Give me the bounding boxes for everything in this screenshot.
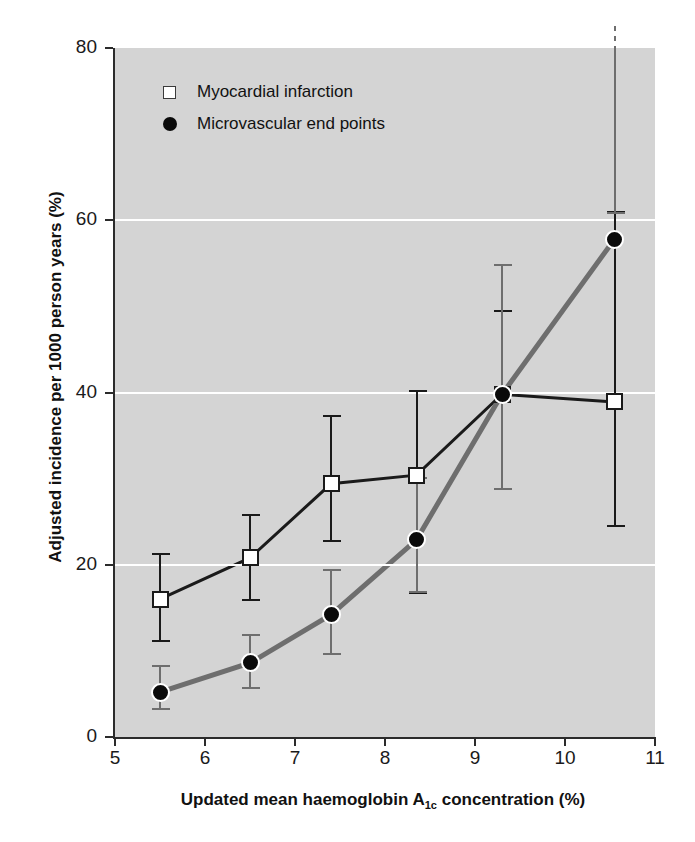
x-tick-mark	[204, 737, 206, 746]
chart-legend: Myocardial infarction Microvascular end …	[163, 76, 385, 140]
legend-item-microvascular-end-points: Microvascular end points	[163, 108, 385, 140]
legend-item-myocardial-infarction: Myocardial infarction	[163, 76, 385, 108]
series-line-1	[160, 239, 615, 692]
data-point-marker	[323, 475, 340, 492]
y-tick-mark	[105, 47, 113, 49]
x-tick-label: 6	[185, 747, 225, 769]
chart-figure: Adjusted incidence per 1000 person years…	[0, 0, 695, 842]
y-tick-mark	[105, 219, 113, 221]
x-tick-mark	[654, 737, 656, 746]
data-point-marker	[606, 393, 623, 410]
x-tick-mark	[294, 737, 296, 746]
error-bar	[614, 48, 616, 213]
x-tick-mark	[564, 737, 566, 746]
error-bar-cap	[323, 653, 341, 655]
filled-circle-icon	[163, 117, 189, 131]
x-tick-label: 8	[365, 747, 405, 769]
error-bar-cap	[494, 264, 512, 266]
legend-label: Myocardial infarction	[189, 82, 353, 102]
error-bar-cap	[607, 525, 625, 527]
data-point-marker	[241, 653, 260, 672]
x-tick-label: 7	[275, 747, 315, 769]
x-tick-mark	[114, 737, 116, 746]
error-bar-cap	[242, 687, 260, 689]
x-axis-title: Updated mean haemoglobin A1c concentrati…	[113, 790, 653, 810]
x-tick-mark	[384, 737, 386, 746]
y-axis-title: Adjusted incidence per 1000 person years…	[46, 32, 66, 722]
error-bar-clipped-dashed	[614, 26, 616, 50]
y-tick-label: 80	[37, 36, 97, 58]
gridline-y-40	[115, 392, 655, 394]
x-axis-title-before: Updated mean haemoglobin A	[181, 790, 425, 809]
gridline-y-60	[115, 219, 655, 221]
data-point-marker	[408, 467, 425, 484]
y-tick-label: 0	[37, 725, 97, 747]
legend-label: Microvascular end points	[189, 114, 385, 134]
data-point-marker	[152, 591, 169, 608]
error-bar	[614, 212, 616, 526]
error-bar-cap	[494, 310, 512, 312]
data-point-marker	[322, 605, 341, 624]
error-bar-cap	[494, 488, 512, 490]
error-bar-cap	[409, 591, 427, 593]
x-tick-label: 5	[95, 747, 135, 769]
error-bar-cap	[242, 634, 260, 636]
data-point-marker	[151, 683, 170, 702]
error-bar-cap	[242, 514, 260, 516]
y-tick-label: 60	[37, 208, 97, 230]
error-bar-cap	[323, 569, 341, 571]
plot-area: Myocardial infarction Microvascular end …	[113, 48, 655, 739]
x-tick-mark	[474, 737, 476, 746]
y-tick-mark	[105, 392, 113, 394]
data-point-marker	[605, 230, 624, 249]
x-tick-label: 10	[545, 747, 585, 769]
error-bar	[501, 265, 503, 489]
error-bar-cap	[152, 553, 170, 555]
open-square-icon	[163, 86, 189, 99]
y-tick-label: 40	[37, 381, 97, 403]
y-tick-label: 20	[37, 553, 97, 575]
error-bar-cap	[607, 212, 625, 214]
error-bar-cap	[152, 640, 170, 642]
error-bar-cap	[152, 708, 170, 710]
x-tick-label: 9	[455, 747, 495, 769]
error-bar-cap	[323, 540, 341, 542]
error-bar-cap	[409, 390, 427, 392]
data-point-marker	[493, 385, 512, 404]
y-tick-mark	[105, 736, 113, 738]
error-bar-cap	[323, 415, 341, 417]
x-tick-label: 11	[635, 747, 675, 769]
x-axis-title-subscript: 1c	[425, 799, 437, 811]
error-bar-cap	[242, 599, 260, 601]
y-tick-mark	[105, 564, 113, 566]
x-axis-title-after: concentration (%)	[437, 790, 585, 809]
data-point-marker	[242, 549, 259, 566]
gridline-y-20	[115, 564, 655, 566]
error-bar-cap	[152, 665, 170, 667]
